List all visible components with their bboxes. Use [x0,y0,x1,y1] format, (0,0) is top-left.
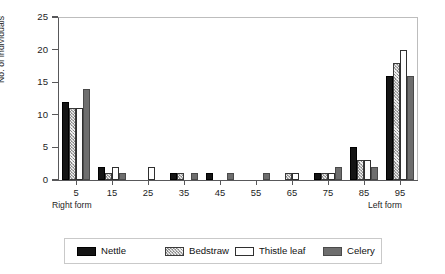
bar-nettle-85 [350,147,357,180]
x-axis-tick [184,180,185,185]
x-axis-tick-label: 15 [97,187,127,198]
x-axis-tick [328,180,329,185]
bar-celery-35 [191,173,198,180]
bar-group [62,17,91,180]
bar-celery-85 [371,167,378,180]
bar-thistle-leaf-95 [400,50,407,180]
x-axis-tick [148,180,149,185]
y-axis-tick-label: 25 [22,12,48,22]
x-axis-tick-label: 45 [205,187,235,198]
bar-nettle-5 [62,102,69,180]
legend-swatch-icon [165,247,184,256]
bar-bedstraw-5 [69,108,76,180]
x-axis-tick [220,180,221,185]
bar-nettle-15 [98,167,105,180]
bar-group [386,17,415,180]
bar-bedstraw-35 [177,173,184,180]
x-axis-tick [112,180,113,185]
legend-item-thistle-leaf[interactable]: Thistle leaf [235,246,305,256]
legend-swatch-icon [77,247,96,256]
bar-group [98,17,127,180]
bar-celery-95 [407,76,414,180]
x-axis-tick [292,180,293,185]
bar-group [242,17,271,180]
bar-group [314,17,343,180]
x-axis-tick-label: 5 [61,187,91,198]
annotation-left-form: Left form [368,200,402,210]
legend-item-label: Nettle [101,246,126,256]
x-axis-tick [400,180,401,185]
y-axis-title: No. of individuals [0,0,6,83]
bar-celery-45 [227,173,234,180]
bar-nettle-95 [386,76,393,180]
x-axis-tick-label: 55 [241,187,271,198]
bar-thistle-leaf-5 [76,108,83,180]
bar-thistle-leaf-15 [112,167,119,180]
bar-celery-5 [83,89,90,180]
legend-item-label: Bedstraw [189,246,229,256]
bar-thistle-leaf-85 [364,160,371,180]
legend-item-label: Celery [347,246,375,256]
x-axis-tick-label: 75 [313,187,343,198]
bar-bedstraw-65 [285,173,292,180]
x-axis-tick-label: 85 [349,187,379,198]
bar-group [350,17,379,180]
y-axis-tick-label: 15 [22,77,48,87]
bar-celery-55 [263,173,270,180]
bar-nettle-35 [170,173,177,180]
legend-item-celery[interactable]: Celery [323,246,375,256]
annotation-right-form: Right form [52,200,92,210]
bar-nettle-45 [206,173,213,180]
bar-celery-75 [335,167,342,180]
bar-bedstraw-75 [321,173,328,180]
y-axis-tick-label: 10 [22,110,48,120]
legend-item-label: Thistle leaf [259,246,305,256]
x-axis-tick-label: 25 [133,187,163,198]
bar-nettle-75 [314,173,321,180]
bar-bedstraw-15 [105,173,112,180]
x-axis-tick [364,180,365,185]
bar-thistle-leaf-25 [148,167,155,180]
x-axis-tick-label: 35 [169,187,199,198]
x-axis-tick [76,180,77,185]
x-axis-tick-label: 65 [277,187,307,198]
legend-swatch-icon [235,247,254,256]
legend-item-nettle[interactable]: Nettle [77,246,126,256]
bar-group [134,17,163,180]
legend-item-bedstraw[interactable]: Bedstraw [165,246,229,256]
bars-layer [58,17,418,180]
bar-group [206,17,235,180]
bar-celery-15 [119,173,126,180]
y-axis-tick-label: 20 [22,45,48,55]
chart-legend: NettleBedstrawThistle leafCelery [64,238,382,264]
bar-bedstraw-85 [357,160,364,180]
bar-bedstraw-95 [393,63,400,180]
y-axis-tick-label: 5 [22,142,48,152]
y-axis-tick-label: 0 [22,175,48,185]
bar-chart: No. of individuals 0510152025 5152535455… [0,0,445,274]
x-axis-tick-label: 95 [385,187,415,198]
legend-swatch-icon [323,247,342,256]
bar-group [170,17,199,180]
x-axis-tick [256,180,257,185]
bar-group [278,17,307,180]
